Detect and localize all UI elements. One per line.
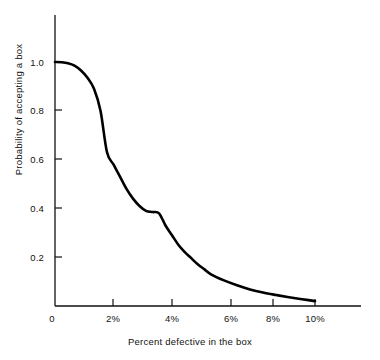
plot-area xyxy=(0,0,380,360)
y-tick-marks xyxy=(55,62,62,257)
x-tick-label-6: 6% xyxy=(224,313,238,324)
x-tick-label-2: 2% xyxy=(106,313,120,324)
x-tick-label-4: 4% xyxy=(165,313,179,324)
y-axis-title: Probability of accepting a box xyxy=(13,20,24,200)
x-axis-title: Percent defective in the box xyxy=(0,336,380,347)
y-tick-label-1: 1.0 xyxy=(4,57,44,68)
y-tick-label-08: 0.8 xyxy=(4,105,44,116)
x-tick-label-0: 0 xyxy=(49,313,54,324)
x-tick-label-10: 10% xyxy=(305,313,325,324)
y-tick-label-04: 0.4 xyxy=(4,203,44,214)
oc-curve-chart: 1.0 0.8 0.6 0.4 0.2 0 2% 4% 6% 8% 10% Pe… xyxy=(0,0,380,360)
y-tick-label-02: 0.2 xyxy=(4,252,44,263)
x-tick-marks xyxy=(113,299,315,306)
y-tick-label-06: 0.6 xyxy=(4,154,44,165)
oc-curve-line xyxy=(55,62,315,301)
x-tick-label-8: 8% xyxy=(266,313,280,324)
